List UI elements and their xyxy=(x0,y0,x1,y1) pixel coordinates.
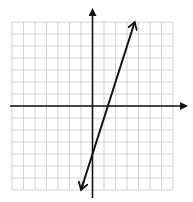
axes xyxy=(10,10,186,198)
series-line-start-arrow xyxy=(81,182,84,190)
coordinate-plane-chart xyxy=(0,0,193,202)
